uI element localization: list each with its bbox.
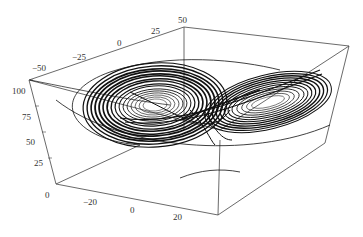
box-bottom-right-edge — [218, 143, 325, 215]
box-right-vertical-edge — [325, 46, 349, 143]
y-tick-label: −25 — [72, 52, 87, 62]
box-top-left-edge — [29, 80, 220, 130]
x-tick-label: 20 — [173, 212, 183, 222]
y-axis-tick-labels: −50−2502550 — [32, 15, 188, 73]
y-tick-label: −50 — [32, 63, 47, 73]
z-tick-label: 100 — [12, 86, 26, 96]
z-tick-label: 25 — [34, 158, 44, 168]
y-tick-label: 50 — [178, 15, 188, 25]
x-axis-tick-labels: −20020 — [83, 197, 183, 222]
lorenz-attractor-plot: −50−2502550 1007550250 −20020 — [0, 0, 363, 237]
x-tick-label: −20 — [83, 197, 98, 207]
x-tick-label: 0 — [130, 205, 135, 215]
z-tick-label: 0 — [45, 190, 50, 200]
z-axis-tick-labels: 1007550250 — [12, 86, 50, 200]
trajectory-left-lobe — [80, 58, 230, 152]
box-front-vertical-edge — [218, 140, 220, 215]
z-tick-label: 50 — [26, 137, 36, 147]
box-bottom-inner-edge — [56, 145, 140, 184]
z-tick-label: 75 — [22, 112, 32, 122]
box-bottom-left-edge — [56, 184, 218, 215]
y-tick-label: 25 — [151, 26, 161, 36]
y-tick-label: 0 — [117, 38, 122, 48]
